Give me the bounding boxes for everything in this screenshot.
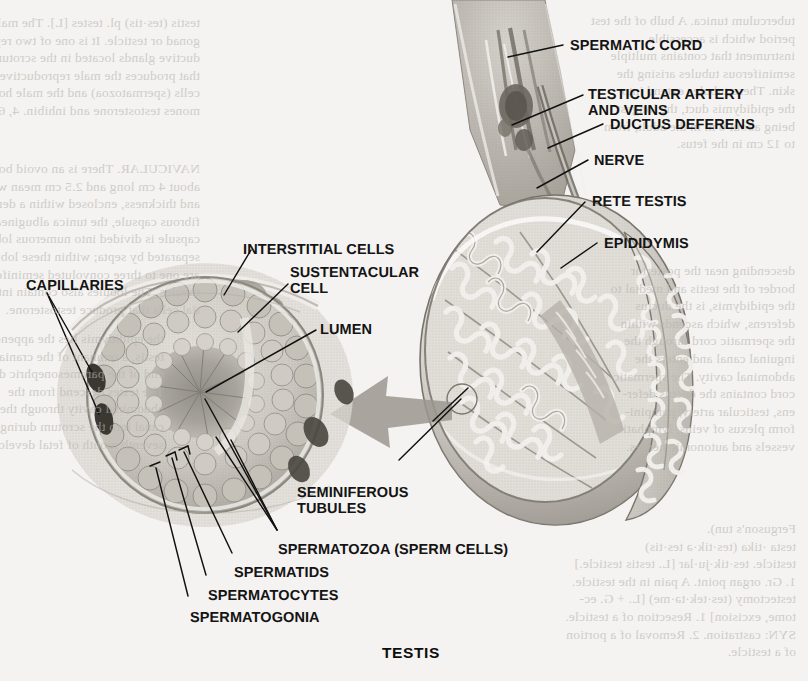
label-spermatic-cord: SPERMATIC CORD (570, 38, 702, 55)
label-spermatozoa: SPERMATOZOA (SPERM CELLS) (278, 542, 508, 559)
label-seminiferous-tubules-line2: TUBULES (297, 501, 366, 518)
label-spermatocytes: SPERMATOCYTES (208, 588, 338, 605)
label-sustentacular-cell-line2: CELL (290, 281, 328, 298)
label-interstitial-cells: INTERSTITIAL CELLS (243, 242, 394, 259)
label-sustentacular-cell-line1: SUSTENTACULAR (290, 265, 419, 282)
label-seminiferous-tubules-line1: SEMINIFEROUS (297, 485, 409, 502)
label-rete-testis: RETE TESTIS (592, 194, 687, 211)
label-spermatogonia: SPERMATOGONIA (190, 610, 320, 627)
label-spermatids: SPERMATIDS (234, 565, 329, 582)
label-nerve: NERVE (594, 153, 644, 170)
label-epididymis: EPIDIDYMIS (604, 236, 689, 253)
label-lumen: LUMEN (320, 322, 372, 339)
figure-title: TESTIS (382, 644, 440, 662)
label-testicular-artery-line1: TESTICULAR ARTERY (588, 87, 744, 104)
label-ductus-deferens: DUCTUS DEFERENS (610, 117, 755, 134)
label-capillaries: CAPILLARIES (26, 278, 124, 295)
